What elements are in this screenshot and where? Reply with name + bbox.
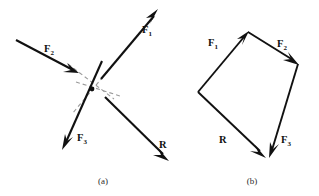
label-r-a: R	[159, 139, 167, 150]
caption-b: (b)	[247, 176, 258, 186]
label-f3-b: F3	[281, 134, 291, 148]
label-f2-b: F2	[277, 38, 287, 52]
vector-f2-b	[248, 32, 299, 65]
vector-r-b	[198, 92, 266, 158]
label-f2-a-subscript: 2	[50, 49, 54, 57]
label-f3-a-subscript: 3	[83, 138, 87, 146]
vector-r-b-arrowhead	[250, 145, 266, 158]
vector-r-a	[105, 97, 169, 161]
vector-f1-b	[198, 31, 249, 92]
label-f1-a: F1	[142, 24, 152, 38]
concurrency-point	[90, 87, 95, 92]
panel-a-group: F1 F2 F3 R (a)	[16, 9, 169, 186]
vector-f1-a	[101, 9, 158, 79]
label-f1-b-subscript: 1	[214, 43, 218, 51]
vector-f2-b-arrowhead	[283, 52, 299, 65]
dashed-extension-r	[76, 82, 120, 96]
vector-f1-b-shaft	[198, 37, 244, 92]
label-f3-b-subscript: 3	[287, 140, 291, 148]
vector-r-a-shaft	[105, 97, 163, 154]
dashed-extension-f2	[68, 64, 114, 99]
label-f1-b: F1	[208, 37, 218, 51]
label-f3-a: F3	[77, 132, 87, 146]
figure-canvas: F1 F2 F3 R (a)	[0, 0, 319, 196]
vector-f3-a-shaft	[66, 61, 102, 142]
caption-a: (a)	[98, 176, 108, 186]
figure-container: F1 F2 F3 R (a)	[0, 0, 319, 196]
panel-b-group: F1 F2 F3 R (b)	[198, 31, 299, 186]
label-r-b: R	[219, 134, 227, 145]
label-f1-a-subscript: 1	[148, 30, 152, 38]
label-f2-b-subscript: 2	[283, 44, 287, 52]
vector-r-b-shaft	[198, 92, 260, 151]
vector-f2-a-arrowhead	[63, 63, 79, 73]
